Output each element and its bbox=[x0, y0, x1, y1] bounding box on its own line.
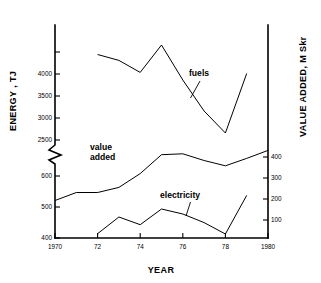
xtick-label-76: 76 bbox=[179, 243, 187, 250]
left-axis-tick-labels-lower: 600 500 400 bbox=[41, 172, 52, 241]
series-label-fuels: fuels bbox=[189, 68, 209, 78]
left-axis-tick-labels-upper: 4000 3500 3000 2500 bbox=[38, 70, 53, 143]
series-line-fuels bbox=[98, 45, 247, 133]
series-label-value-added-line2: added bbox=[90, 152, 115, 162]
chart-container: 4000 3500 3000 2500 600 500 400 400 300 … bbox=[0, 0, 321, 283]
annotation-electricity: electricity bbox=[160, 190, 200, 216]
tick-label-3500: 3500 bbox=[38, 92, 53, 99]
xtick-label-74: 74 bbox=[137, 243, 145, 250]
xtick-label-1980: 1980 bbox=[261, 243, 276, 250]
series-line-electricity bbox=[98, 195, 247, 234]
tick-label-4000: 4000 bbox=[38, 70, 53, 77]
tick-label-400: 400 bbox=[41, 234, 52, 241]
tick-label-400-right: 400 bbox=[271, 153, 282, 160]
tick-label-100-right: 100 bbox=[271, 216, 282, 223]
energy-value-added-line-chart: 4000 3500 3000 2500 600 500 400 400 300 … bbox=[0, 0, 321, 283]
y2-axis-title: VALUE ADDED, M Skr bbox=[298, 36, 308, 137]
tick-label-600: 600 bbox=[41, 172, 52, 179]
right-axis-tick-labels: 400 300 200 100 bbox=[271, 153, 282, 223]
tick-label-3000: 3000 bbox=[38, 114, 53, 121]
annotation-value-added: value added bbox=[90, 142, 115, 162]
xtick-label-72: 72 bbox=[94, 243, 102, 250]
tick-label-300-right: 300 bbox=[271, 174, 282, 181]
leader-line-electricity bbox=[186, 202, 191, 216]
xtick-label-78: 78 bbox=[222, 243, 230, 250]
series-label-electricity: electricity bbox=[160, 190, 200, 200]
y-axis-title: ENERGY , TJ bbox=[8, 71, 18, 131]
xtick-label-1970: 1970 bbox=[48, 243, 63, 250]
leader-line-fuels bbox=[191, 81, 201, 98]
x-axis-tick-labels: 1970 72 74 76 78 1980 bbox=[48, 243, 276, 250]
x-axis-title: YEAR bbox=[148, 265, 175, 275]
series-label-value-added-line1: value bbox=[90, 142, 112, 152]
tick-label-2500: 2500 bbox=[38, 136, 53, 143]
tick-label-200-right: 200 bbox=[271, 195, 282, 202]
tick-label-500: 500 bbox=[41, 203, 52, 210]
